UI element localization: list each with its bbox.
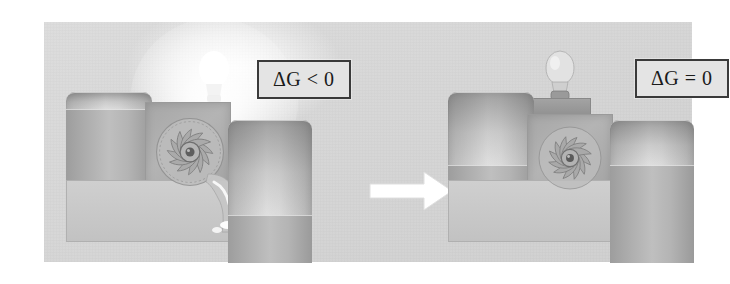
light-bulb-lit xyxy=(192,44,236,106)
right-tank xyxy=(228,120,312,263)
eq-turbine-impeller xyxy=(534,122,606,194)
illustration-panel: ΔG < 0 xyxy=(44,22,692,262)
right-tank-liquid xyxy=(228,215,312,263)
right-tank-headspace xyxy=(228,120,312,216)
light-bulb-unlit xyxy=(539,44,581,104)
left-tank-rim xyxy=(66,92,152,101)
eq-left-tank-rim xyxy=(448,92,534,101)
transition-arrow xyxy=(368,170,454,216)
eq-left-tank-headspace xyxy=(448,92,534,166)
right-tank-rim xyxy=(228,120,312,129)
eq-right-tank-liquid xyxy=(610,165,694,263)
eq-right-tank xyxy=(610,120,694,263)
label-delta-g-negative: ΔG < 0 xyxy=(257,60,351,99)
label-delta-g-zero: ΔG = 0 xyxy=(635,59,729,98)
figure-root: ΔG < 0 xyxy=(0,0,730,284)
eq-right-tank-rim xyxy=(610,120,694,129)
